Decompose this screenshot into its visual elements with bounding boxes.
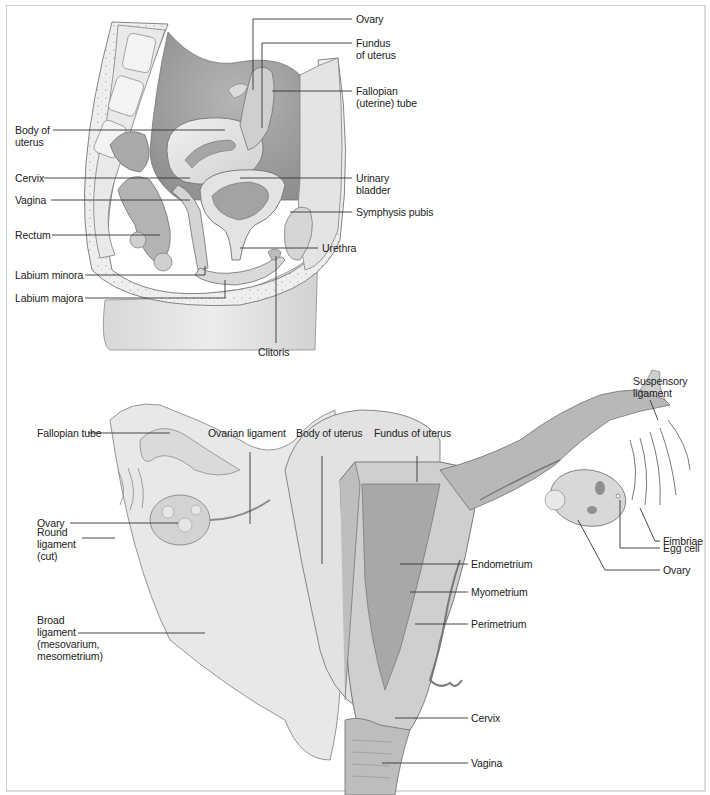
label-suspensory-ligament: Suspensory ligament [633, 375, 687, 399]
rectum-shape [118, 177, 170, 262]
label-perimetrium: Perimetrium [471, 618, 527, 630]
label-myometrium: Myometrium [471, 586, 528, 598]
label-ovary-right: Ovary [663, 564, 691, 576]
label-body-of-uterus-top: Body of uterus [15, 124, 50, 148]
label-fallopian-tube-top: Fallopian (uterine) tube [356, 85, 417, 109]
label-urethra: Urethra [322, 242, 356, 254]
label-vagina-top: Vagina [15, 194, 46, 206]
pelvis-sagittal-illustration [0, 0, 710, 795]
label-rectum: Rectum [15, 229, 51, 241]
egg-cell-shape [616, 494, 620, 498]
label-urinary-bladder: Urinary bladder [356, 172, 390, 196]
label-fundus-of-uterus-bottom: Fundus of uterus [374, 427, 451, 439]
label-symphysis-pubis: Symphysis pubis [356, 206, 433, 218]
label-vagina-bottom: Vagina [471, 757, 502, 769]
label-body-of-uterus-bottom: Body of uterus [296, 427, 362, 439]
label-endometrium: Endometrium [471, 558, 532, 570]
label-labium-minora: Labium minora [15, 269, 83, 281]
label-fundus-of-uterus-top: Fundus of uterus [356, 37, 396, 61]
label-labium-majora: Labium majora [15, 292, 83, 304]
label-ovary-top: Ovary [356, 13, 384, 25]
label-cervix-bottom: Cervix [471, 712, 500, 724]
label-fallopian-tube-bottom: Fallopian tube [37, 427, 102, 439]
label-ovarian-ligament: Ovarian ligament [208, 427, 286, 439]
label-round-ligament: Round ligament (cut) [37, 526, 76, 562]
label-broad-ligament: Broad ligament (mesovarium, mesometrium) [37, 614, 103, 662]
label-cervix-top: Cervix [15, 172, 44, 184]
follicle [545, 490, 565, 510]
label-clitoris: Clitoris [258, 346, 289, 358]
fimbriae-right [630, 420, 690, 505]
vagina-tube [345, 718, 410, 795]
label-egg-cell: Egg cell [663, 542, 700, 554]
